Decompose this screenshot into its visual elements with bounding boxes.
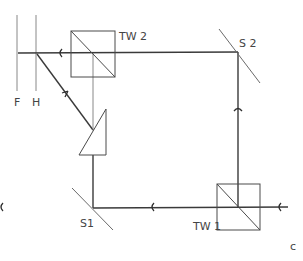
label-h: H bbox=[32, 96, 40, 109]
bottom-beam bbox=[93, 207, 288, 208]
arrow-left-icon bbox=[1, 203, 3, 211]
label-s2: S 2 bbox=[239, 37, 256, 50]
panel-label: c bbox=[290, 240, 296, 253]
label-s1: S1 bbox=[80, 217, 94, 230]
arrow-diagonal-icon bbox=[62, 91, 68, 97]
label-tw2: TW 2 bbox=[118, 30, 147, 43]
top-beam bbox=[18, 52, 238, 53]
label-f: F bbox=[14, 96, 20, 109]
optical-interferometer-diagram: TW 2 S 2 F H S1 TW 1 c bbox=[0, 0, 303, 261]
label-tw1: TW 1 bbox=[192, 220, 221, 233]
